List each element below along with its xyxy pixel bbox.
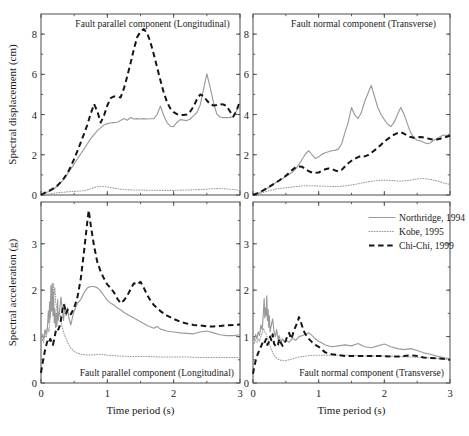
y-tick-label: 1 [244,332,249,343]
figure-canvas: 02468Spectral displacement (cm)Fault par… [0,0,469,436]
series-kobe-1995 [41,283,240,357]
legend-label: Northridge, 1994 [399,212,465,223]
y-tick-label: 0 [32,190,37,201]
y-tick-label: 3 [244,239,249,250]
x-tick-label: 1 [316,388,321,399]
x-tick-label: 0 [38,388,43,399]
series-northridge-1994 [253,296,450,359]
y-tick-label: 0 [32,378,37,389]
y-tick-label: 2 [32,285,37,296]
panel-title: Fault normal component (Transverse) [299,367,444,379]
response-spectra-figure: 02468Spectral displacement (cm)Fault par… [0,0,469,436]
y-tick-label: 3 [32,239,37,250]
y-axis-title: Spectral displacement (cm) [6,44,19,165]
y-tick-label: 2 [244,150,249,161]
panel-title: Fault parallel component (Longitudinal) [80,367,234,379]
y-tick-label: 4 [32,110,38,121]
y-tick-label: 1 [32,332,37,343]
y-tick-label: 4 [244,110,250,121]
y-axis-title: Spectral acceleration (g) [6,238,19,346]
panel-top-right: 02468Fault normal component (Transverse) [244,14,450,201]
legend-label: Kobe, 1995 [399,226,444,237]
series-chi-chi-1999 [41,29,240,195]
y-tick-label: 6 [244,69,249,80]
y-tick-label: 0 [244,378,249,389]
panel-bottom-right: 01230123Time period (s)Fault normal comp… [244,202,466,417]
y-tick-label: 6 [32,69,37,80]
series-northridge-1994 [41,74,240,195]
panel-bottom-left: 01230123Time period (s)Spectral accelera… [6,202,243,417]
x-axis-title: Time period (s) [317,404,385,417]
series-chi-chi-1999 [253,132,450,195]
legend: Northridge, 1994Kobe, 1995Chi-Chi, 1999 [369,212,465,251]
y-tick-label: 0 [244,190,249,201]
x-tick-label: 1 [105,388,110,399]
x-tick-label: 3 [447,388,452,399]
y-tick-label: 2 [244,285,249,296]
panel-title: Fault normal component (Transverse) [291,18,436,30]
legend-label: Chi-Chi, 1999 [399,240,454,251]
x-tick-label: 3 [237,388,242,399]
panel-top-left: 02468Spectral displacement (cm)Fault par… [6,14,240,201]
panel-title: Fault parallel component (Longitudinal) [75,18,229,30]
x-tick-label: 2 [382,388,387,399]
x-tick-label: 0 [250,388,255,399]
plot-frame [41,202,240,383]
x-axis-title: Time period (s) [106,404,174,417]
x-tick-label: 2 [171,388,176,399]
series-kobe-1995 [253,179,450,195]
y-tick-label: 8 [32,29,37,40]
y-tick-label: 2 [32,150,37,161]
y-tick-label: 8 [244,29,249,40]
plot-frame [253,14,450,195]
